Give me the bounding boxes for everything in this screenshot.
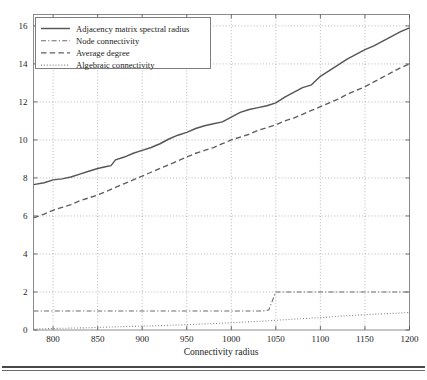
y-axis-tick-label: 16 <box>19 21 29 31</box>
legend-label: Algebraic connectivity <box>76 60 155 70</box>
y-axis-tick-label: 0 <box>23 325 28 335</box>
y-axis-tick-label: 12 <box>19 97 28 107</box>
x-axis-tick-label: 800 <box>46 334 60 344</box>
x-axis-title: Connectivity radius <box>184 347 259 357</box>
x-axis-tick-label: 1050 <box>267 334 286 344</box>
y-axis-tick-label: 2 <box>23 287 28 297</box>
x-axis-tick-label: 1200 <box>401 334 420 344</box>
legend-label: Node connectivity <box>76 36 140 46</box>
x-axis-tick-label: 900 <box>135 334 149 344</box>
figure-container: 0246810121416 80085090095010001050110011… <box>0 0 427 380</box>
y-axis-tick-label: 10 <box>19 135 29 145</box>
y-axis-tick-label: 14 <box>19 59 29 69</box>
x-axis-tick-label: 950 <box>180 334 194 344</box>
y-axis-tick-label: 4 <box>23 249 28 259</box>
x-axis-tick-label: 1000 <box>222 334 241 344</box>
line-chart: 0246810121416 80085090095010001050110011… <box>0 0 427 380</box>
legend-label: Adjacency matrix spectral radius <box>76 24 190 34</box>
chart-legend: Adjacency matrix spectral radiusNode con… <box>36 18 211 71</box>
y-axis-tick-label: 6 <box>23 211 28 221</box>
x-axis-tick-label: 1100 <box>312 334 330 344</box>
legend-label: Average degree <box>76 48 130 58</box>
y-axis-tick-label: 8 <box>23 173 28 183</box>
x-axis-tick-labels: 80085090095010001050110011501200 <box>46 334 419 344</box>
x-axis-tick-label: 850 <box>91 334 105 344</box>
x-axis-tick-label: 1150 <box>356 334 374 344</box>
